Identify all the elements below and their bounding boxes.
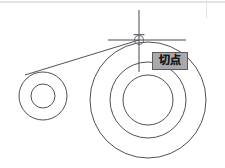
left-outer-circle[interactable] — [19, 72, 67, 120]
osnap-tooltip: 切点 — [152, 52, 188, 70]
cad-vector-layer — [0, 0, 225, 168]
right-outer-circle[interactable] — [90, 42, 206, 158]
tangent-line[interactable] — [25, 40, 139, 75]
osnap-tooltip-label: 切点 — [159, 55, 181, 66]
left-inner-circle[interactable] — [31, 84, 55, 108]
right-inner-circle[interactable] — [123, 75, 173, 125]
cad-drawing-canvas[interactable]: 切点 — [0, 0, 225, 168]
right-middle-circle[interactable] — [110, 62, 186, 138]
